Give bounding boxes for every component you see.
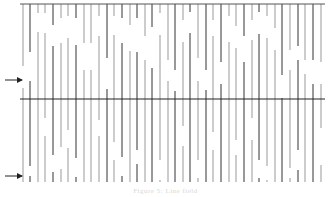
- figure-caption: Figure 5: Line field: [0, 187, 331, 195]
- arrows: [5, 80, 22, 176]
- line-field-figure: [0, 0, 331, 197]
- vertical-lines: [23, 4, 321, 182]
